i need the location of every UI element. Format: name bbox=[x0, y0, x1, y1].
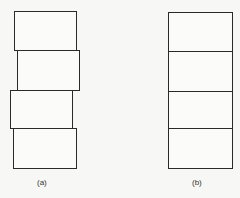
panel-a-box-4 bbox=[13, 128, 77, 169]
panel-b-box-3 bbox=[168, 91, 233, 129]
panel-b-label: (b) bbox=[192, 178, 202, 187]
panel-a-label: (a) bbox=[37, 178, 47, 187]
panel-a-box-3 bbox=[10, 90, 73, 129]
panel-b-box-4 bbox=[168, 128, 233, 169]
panel-a-box-2 bbox=[17, 50, 80, 91]
panel-b-box-2 bbox=[168, 51, 233, 92]
panel-a-box-1 bbox=[14, 11, 77, 51]
panel-b-box-1 bbox=[168, 12, 233, 52]
